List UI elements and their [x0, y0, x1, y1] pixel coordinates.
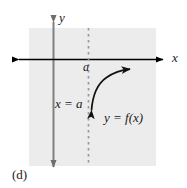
coordinate-plane-graphic	[0, 0, 187, 188]
plot-region-background	[29, 28, 156, 166]
y-axis-label: y	[59, 11, 65, 24]
figure-panel: y x a x = a y = f(x) (d)	[0, 0, 187, 188]
panel-letter-label: (d)	[12, 168, 27, 181]
x-axis-label: x	[172, 51, 178, 64]
function-curve-label: y = f(x)	[104, 111, 143, 124]
x-tick-label-a: a	[83, 61, 89, 73]
vertical-line-label: x = a	[55, 97, 83, 110]
